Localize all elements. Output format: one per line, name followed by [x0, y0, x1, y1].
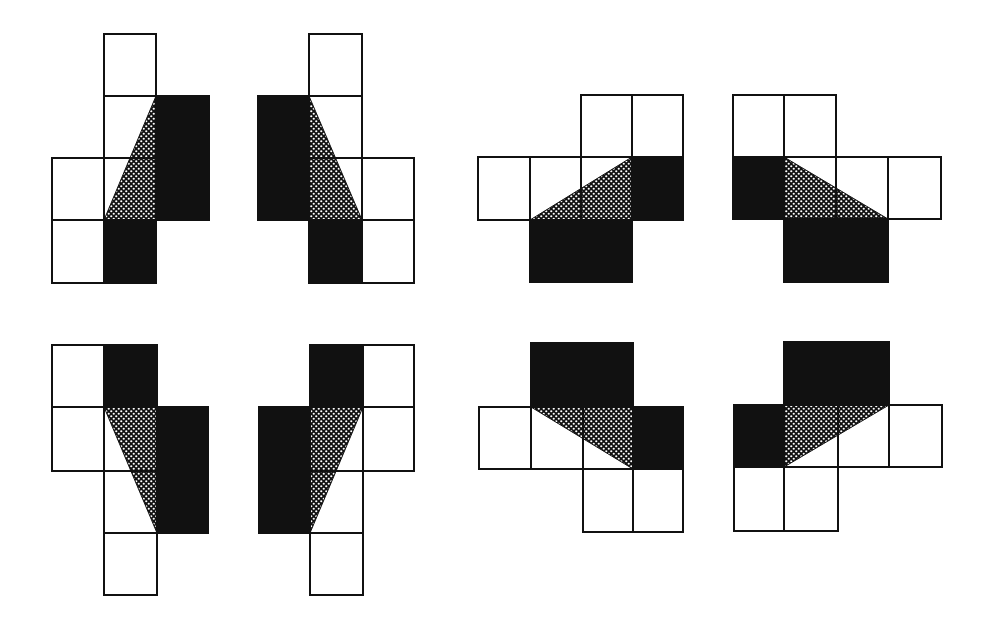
grid-figure-fig2 [258, 34, 414, 283]
empty-cell [52, 345, 104, 407]
shaded-cell [156, 158, 209, 220]
shaded-cell [157, 407, 208, 471]
figures-group [52, 34, 942, 595]
empty-cell [52, 158, 104, 220]
empty-cell [363, 407, 414, 471]
grid-figure-fig6 [259, 345, 414, 595]
shaded-cell [838, 342, 889, 405]
shaded-cell [581, 220, 632, 282]
shaded-cell [734, 405, 784, 467]
empty-cell [478, 157, 530, 220]
empty-cell [888, 157, 941, 219]
empty-cell [479, 407, 531, 469]
empty-cell [784, 95, 836, 157]
empty-cell [104, 34, 156, 96]
empty-cell [583, 469, 633, 532]
empty-cell [362, 158, 414, 220]
shaded-cell [104, 220, 156, 283]
grid-figure-fig1 [52, 34, 209, 283]
empty-cell [52, 407, 104, 471]
empty-cell [310, 533, 363, 595]
shaded-cell [258, 158, 309, 220]
grid-figure-fig8 [734, 342, 942, 531]
shaded-cell [633, 407, 683, 469]
shaded-cell [784, 342, 838, 405]
empty-cell [734, 467, 784, 531]
shaded-cell [309, 220, 362, 283]
empty-cell [363, 345, 414, 407]
grid-figure-fig7 [479, 343, 683, 532]
shaded-cell [531, 343, 583, 407]
empty-cell [784, 467, 838, 531]
empty-cell [633, 469, 683, 532]
empty-cell [104, 533, 157, 595]
grid-figure-fig5 [52, 345, 208, 595]
shaded-cell [156, 96, 209, 158]
shaded-cell [104, 345, 157, 407]
shaded-cell [784, 219, 836, 282]
grid-figure-fig3 [478, 95, 683, 282]
empty-cell [632, 95, 683, 157]
shaded-cell [157, 471, 208, 533]
empty-cell [889, 405, 942, 467]
shaded-cell [530, 220, 581, 282]
shaded-cell [310, 345, 363, 407]
empty-cell [362, 220, 414, 283]
shaded-cell [259, 471, 310, 533]
shaded-cell [836, 219, 888, 282]
empty-cell [52, 220, 104, 283]
shaded-cell [258, 96, 309, 158]
shaded-cell [259, 407, 310, 471]
empty-cell [733, 95, 784, 157]
shaded-cell [733, 157, 784, 219]
empty-cell [581, 95, 632, 157]
diagram-canvas [0, 0, 993, 627]
grid-figure-fig4 [733, 95, 941, 282]
shaded-cell [632, 157, 683, 220]
shaded-cell [583, 343, 633, 407]
empty-cell [309, 34, 362, 96]
